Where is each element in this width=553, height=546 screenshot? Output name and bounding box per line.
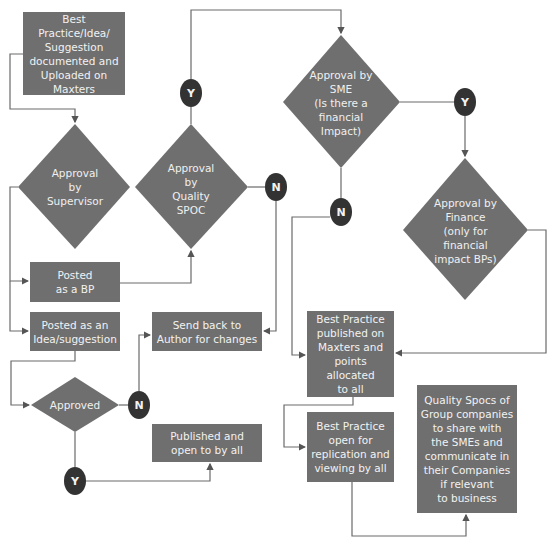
node-uploaded-text: Best Practice/Idea/ Suggestion documente… <box>26 12 122 96</box>
badge-sme-yes: Y <box>454 88 476 116</box>
badge-sme-no: N <box>330 198 352 226</box>
node-quality-spocs-share: Quality Spocs of Group companies to shar… <box>417 385 517 513</box>
diamond-sme-label: Approval by SME (Is there a financial Im… <box>296 66 386 140</box>
node-published-open-text: Published and open to by all <box>170 429 244 457</box>
diamond-approved-label: Approved <box>40 397 110 413</box>
badge-approved-no: N <box>128 391 150 419</box>
node-bp-open-text: Best Practice open for replication and v… <box>311 419 389 475</box>
node-send-back-text: Send back to Author for changes <box>157 318 258 346</box>
node-published-open: Published and open to by all <box>152 424 262 462</box>
badge-approved-yes: Y <box>64 467 86 495</box>
diamond-quality-spoc-label: Approval by Quality SPOC <box>146 158 236 220</box>
badge-qspoc-yes: Y <box>180 79 202 107</box>
node-posted-bp-text: Posted as a BP <box>56 268 95 296</box>
node-posted-idea-text: Posted as an Idea/suggestion <box>33 318 117 346</box>
node-uploaded: Best Practice/Idea/ Suggestion documente… <box>23 12 125 95</box>
node-send-back: Send back to Author for changes <box>152 312 262 351</box>
diamond-finance-label: Approval by Finance (only for financial … <box>418 194 513 268</box>
node-posted-idea: Posted as an Idea/suggestion <box>30 312 120 351</box>
node-bp-published: Best Practice published on Maxters and p… <box>307 311 394 397</box>
node-bp-published-text: Best Practice published on Maxters and p… <box>310 312 391 396</box>
badge-qspoc-no: N <box>265 173 287 201</box>
node-quality-spocs-share-text: Quality Spocs of Group companies to shar… <box>421 393 513 505</box>
node-posted-bp: Posted as a BP <box>30 262 120 302</box>
node-bp-open: Best Practice open for replication and v… <box>307 412 394 482</box>
diamond-supervisor-label: Approval by Supervisor <box>30 160 120 214</box>
